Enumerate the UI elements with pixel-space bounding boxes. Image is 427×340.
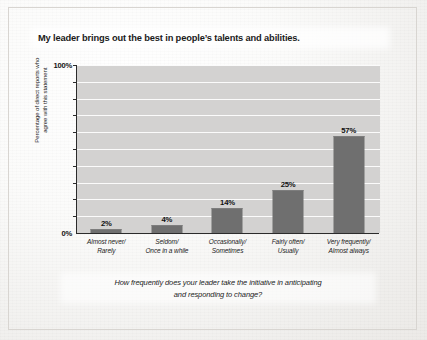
category-label-line-1: Seldom/ — [137, 237, 198, 246]
bar-value-label: 14% — [220, 198, 235, 207]
y-axis-title-line-2: agree with this statement — [41, 35, 49, 165]
bar-slot: 25% — [258, 65, 319, 233]
y-axis-label-max: 100% — [53, 61, 72, 70]
category-label-line-1: Fairly often/ — [258, 237, 319, 246]
bar[interactable] — [333, 136, 364, 233]
bar-value-label: 4% — [162, 215, 173, 224]
bar-value-label: 25% — [281, 180, 296, 189]
bar-chart-figure: My leader brings out the best in people’… — [0, 0, 427, 340]
x-axis-category-label: Occasionally/Sometimes — [197, 237, 258, 256]
y-axis-title: Percentage of direct reports who agree w… — [33, 35, 49, 165]
category-label-line-1: Occasionally/ — [197, 237, 258, 246]
x-axis-category-labels: Almost never/RarelySeldom/Once in a whil… — [76, 237, 379, 267]
bar[interactable] — [151, 225, 182, 233]
category-label-line-2: Once in a while — [137, 246, 198, 255]
x-axis-category-label: Almost never/Rarely — [76, 237, 137, 256]
bar[interactable] — [212, 208, 243, 233]
x-axis-category-label: Fairly often/Usually — [258, 237, 319, 256]
x-axis-caption-line-1: How frequently does your leader take the… — [63, 277, 373, 289]
bar-value-label: 57% — [341, 126, 356, 135]
category-label-line-2: Rarely — [76, 246, 137, 255]
category-label-line-2: Almost always — [318, 246, 379, 255]
x-axis-caption: How frequently does your leader take the… — [63, 277, 373, 300]
category-label-line-2: Sometimes — [197, 246, 258, 255]
category-label-line-2: Usually — [258, 246, 319, 255]
bar-slot: 14% — [197, 65, 258, 233]
x-axis-category-label: Seldom/Once in a while — [137, 237, 198, 256]
bar-slot: 57% — [318, 65, 379, 233]
category-label-line-1: Very frequently/ — [318, 237, 379, 246]
bar[interactable] — [91, 229, 122, 233]
bar-slot: 4% — [137, 65, 198, 233]
bar-series: 2%4%14%25%57% — [76, 65, 379, 233]
chart-title: My leader brings out the best in people’… — [38, 33, 388, 43]
y-axis-label-min: 0% — [61, 229, 72, 238]
x-axis-caption-line-2: and responding to change? — [63, 289, 373, 301]
bar-slot: 2% — [76, 65, 137, 233]
bar[interactable] — [273, 190, 304, 233]
x-axis-category-label: Very frequently/Almost always — [318, 237, 379, 256]
category-label-line-1: Almost never/ — [76, 237, 137, 246]
bar-value-label: 2% — [101, 219, 112, 228]
scanned-page: My leader brings out the best in people’… — [0, 0, 427, 340]
y-axis-title-line-1: Percentage of direct reports who — [33, 35, 41, 165]
x-axis-line — [76, 233, 379, 234]
